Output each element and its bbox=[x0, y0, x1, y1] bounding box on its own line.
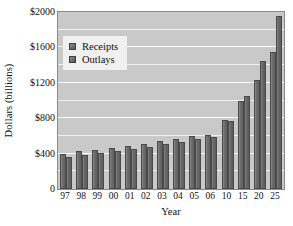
bar-outlays-25 bbox=[276, 16, 282, 189]
legend-swatch-receipts bbox=[69, 43, 76, 50]
bar-group bbox=[60, 154, 72, 189]
chart-figure: Dollars (billions) 0$400$800$1200$1600$2… bbox=[0, 0, 293, 226]
legend-item: Outlays bbox=[69, 53, 118, 66]
chart-legend: ReceiptsOutlays bbox=[63, 36, 127, 70]
bar-outlays-00 bbox=[115, 151, 121, 189]
bar-outlays-02 bbox=[147, 147, 153, 189]
legend-item-label: Outlays bbox=[82, 54, 115, 65]
legend-item-label: Receipts bbox=[82, 41, 118, 52]
x-axis-title: Year bbox=[57, 206, 285, 217]
bar-outlays-99 bbox=[98, 153, 104, 189]
bar-outlays-10 bbox=[228, 121, 234, 189]
y-axis-tick-label: $1600 bbox=[17, 41, 55, 52]
bar-outlays-97 bbox=[66, 157, 72, 189]
y-axis-tick-label: $2000 bbox=[17, 6, 55, 17]
bar-outlays-06 bbox=[211, 137, 217, 189]
x-axis-tick-label: 25 bbox=[265, 191, 285, 201]
bar-group bbox=[173, 139, 185, 189]
y-axis-tick-label: $1200 bbox=[17, 76, 55, 87]
bar-group bbox=[125, 146, 137, 189]
bar-group bbox=[270, 16, 282, 189]
bar-group bbox=[157, 141, 169, 189]
bar-outlays-04 bbox=[179, 142, 185, 189]
legend-item: Receipts bbox=[69, 40, 118, 53]
bar-outlays-98 bbox=[82, 155, 88, 189]
bar-group bbox=[92, 150, 104, 189]
bar-outlays-20 bbox=[260, 61, 266, 189]
legend-swatch-outlays bbox=[69, 56, 76, 63]
bar-group bbox=[205, 135, 217, 189]
bar-group bbox=[76, 151, 88, 189]
bar-group bbox=[238, 96, 250, 189]
bar-outlays-05 bbox=[195, 139, 201, 189]
bar-outlays-15 bbox=[244, 96, 250, 189]
y-axis-tick-label: $400 bbox=[17, 147, 55, 158]
bar-outlays-03 bbox=[163, 144, 169, 189]
bar-group bbox=[189, 136, 201, 189]
y-axis-tick-label: $800 bbox=[17, 112, 55, 123]
y-axis-tick-label: 0 bbox=[17, 183, 55, 194]
bar-group bbox=[222, 120, 234, 189]
x-axis-tick-labels: 9798990001020304050610152025 bbox=[57, 191, 285, 205]
y-axis-tick-labels: 0$400$800$1200$1600$2000 bbox=[12, 0, 55, 226]
bar-outlays-01 bbox=[131, 149, 137, 189]
bar-group bbox=[109, 148, 121, 189]
bar-group bbox=[254, 61, 266, 189]
bar-group bbox=[141, 144, 153, 189]
